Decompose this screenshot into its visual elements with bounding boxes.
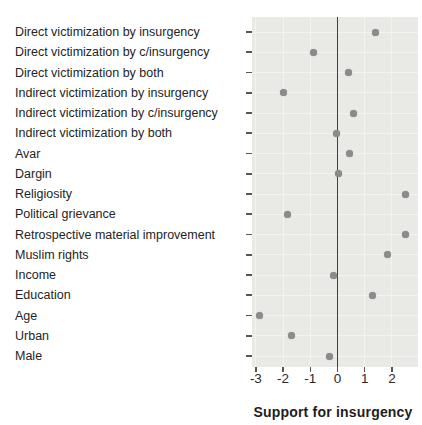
data-point [310, 49, 317, 56]
category-label: Direct victimization by both [15, 63, 164, 83]
horizontal-gridline [252, 295, 418, 296]
data-point [333, 130, 340, 137]
x-axis-title: Support for insurgency [248, 404, 418, 420]
category-label: Income [15, 265, 56, 285]
data-point [256, 312, 263, 319]
horizontal-gridline [252, 113, 418, 114]
horizontal-gridline [252, 356, 418, 357]
category-label: Direct victimization by insurgency [15, 22, 200, 42]
data-point [284, 211, 291, 218]
data-point [369, 292, 376, 299]
category-label: Political grievance [15, 204, 116, 224]
x-axis-tick-label: -3 [243, 371, 269, 386]
horizontal-gridline [252, 254, 418, 255]
category-label: Male [15, 346, 42, 366]
data-point [402, 191, 409, 198]
data-point [372, 29, 379, 36]
data-point [384, 251, 391, 258]
category-label: Avar [15, 144, 40, 164]
horizontal-gridline [252, 194, 418, 195]
zero-reference-line [337, 17, 339, 367]
data-point [280, 89, 287, 96]
x-axis-tick-label: -2 [270, 371, 296, 386]
category-label: Religiosity [15, 184, 72, 204]
horizontal-gridline [252, 92, 418, 93]
data-point [335, 170, 342, 177]
horizontal-gridline [252, 234, 418, 235]
horizontal-gridline [252, 335, 418, 336]
category-label: Dargin [15, 164, 52, 184]
coefficient-dot-plot: Direct victimization by insurgencyDirect… [0, 0, 422, 425]
category-label: Retrospective material improvement [15, 225, 215, 245]
x-axis-tick-label: 2 [379, 371, 405, 386]
data-point [326, 353, 333, 360]
data-point [346, 150, 353, 157]
data-point [402, 231, 409, 238]
category-label: Muslim rights [15, 245, 89, 265]
category-label: Urban [15, 326, 49, 346]
horizontal-gridline [252, 214, 418, 215]
category-label: Indirect victimization by both [15, 123, 172, 143]
data-point [345, 69, 352, 76]
horizontal-gridline [252, 72, 418, 73]
x-axis-tick-label: 0 [325, 371, 351, 386]
category-label: Indirect victimization by insurgency [15, 83, 208, 103]
category-label: Age [15, 306, 37, 326]
category-label: Indirect victimization by c/insurgency [15, 103, 218, 123]
data-point [288, 332, 295, 339]
x-axis-tick-label: -1 [297, 371, 323, 386]
plot-panel [252, 17, 418, 367]
horizontal-gridline [252, 52, 418, 53]
data-point [330, 272, 337, 279]
data-point [350, 110, 357, 117]
horizontal-gridline [252, 153, 418, 154]
horizontal-gridline [252, 32, 418, 33]
category-label: Education [15, 285, 71, 305]
horizontal-gridline [252, 315, 418, 316]
x-axis-tick-label: 1 [352, 371, 378, 386]
category-label: Direct victimization by c/insurgency [15, 42, 210, 62]
